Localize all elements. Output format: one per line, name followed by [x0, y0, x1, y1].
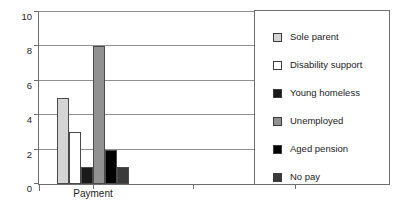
legend-item[interactable]: Unemployed [255, 107, 389, 135]
legend-swatch-icon [273, 89, 282, 98]
x-axis-tick [39, 184, 40, 191]
bar [57, 98, 69, 184]
x-axis-tick [193, 184, 194, 189]
legend-item-label: Sole parent [290, 32, 339, 42]
legend-item-label: Disability support [290, 60, 362, 70]
bar [81, 167, 93, 184]
legend-item-label: Unemployed [290, 116, 343, 126]
legend-item[interactable]: Disability support [255, 51, 389, 79]
legend-swatch-icon [273, 33, 282, 42]
legend-swatch-icon [273, 145, 282, 154]
legend: Sole parentDisability supportYoung homel… [254, 10, 390, 185]
legend-item[interactable]: No pay [255, 163, 389, 191]
legend-item-label: Young homeless [290, 88, 360, 98]
x-axis-category-label: Payment [73, 189, 112, 199]
legend-item[interactable]: Aged pension [255, 135, 389, 163]
legend-swatch-icon [273, 117, 282, 126]
legend-swatch-icon [273, 61, 282, 70]
bar [105, 150, 117, 184]
bar-chart: 0246810 Payment Sole parentDisability su… [0, 0, 409, 212]
bar [117, 167, 129, 184]
legend-item-label: No pay [290, 172, 320, 182]
legend-item[interactable]: Sole parent [255, 23, 389, 51]
bar [69, 132, 81, 184]
legend-item-label: Aged pension [290, 144, 348, 154]
legend-swatch-icon [273, 173, 282, 182]
bar [93, 46, 105, 184]
legend-item[interactable]: Young homeless [255, 79, 389, 107]
